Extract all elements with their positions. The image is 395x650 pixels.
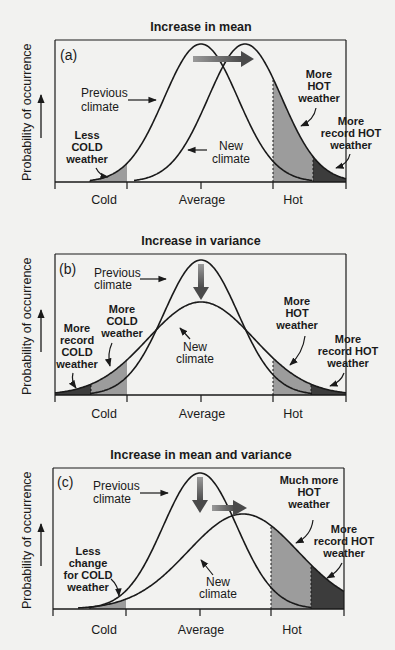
- x-tick-label: Cold: [91, 623, 117, 637]
- more-record-hot-label: record HOT: [318, 345, 379, 357]
- pointer-arrow-icon: [72, 373, 76, 388]
- new-climate-label: New: [219, 139, 243, 153]
- y-axis-label: Probability of occurrence: [20, 43, 34, 181]
- more-hot-label: HOT: [307, 80, 331, 92]
- previous-climate-label: climate: [81, 100, 119, 114]
- more-record-cold-label: COLD: [61, 346, 92, 358]
- shift-down-arrow-icon: [198, 264, 204, 288]
- much-more-hot-label: Much more: [280, 474, 339, 486]
- panel-title: Increase in mean: [150, 20, 251, 34]
- x-tick-label: Cold: [91, 193, 117, 207]
- less-change-cold-label: Less: [75, 545, 100, 557]
- pointer-arrow-icon: [327, 563, 342, 578]
- x-tick-label: Cold: [91, 407, 117, 421]
- pointer-arrow-icon: [201, 560, 213, 575]
- x-tick-label: Hot: [282, 623, 302, 637]
- less-cold-label: Less: [74, 129, 99, 141]
- previous-climate-label: climate: [94, 278, 132, 292]
- pointer-arrow-icon: [96, 168, 108, 177]
- more-record-cold-label: weather: [55, 358, 98, 370]
- less-cold-label: COLD: [71, 141, 102, 153]
- x-tick-label: Hot: [283, 193, 303, 207]
- y-axis-label: Probability of occurrence: [20, 257, 34, 395]
- more-record-cold-label: More: [64, 322, 90, 334]
- pointer-arrow-icon: [290, 336, 305, 365]
- pointer-arrow-icon: [109, 343, 112, 366]
- more-record-hot-label: weather: [329, 139, 372, 151]
- more-hot-label: HOT: [285, 307, 309, 319]
- extreme-region: [271, 526, 311, 609]
- less-change-cold-label: change: [69, 557, 108, 569]
- panel-label: (a): [60, 47, 77, 63]
- new-climate-label: climate: [212, 152, 250, 166]
- y-axis-label: Probability of occurrence: [20, 471, 34, 609]
- less-change-cold-label: weather: [66, 581, 109, 593]
- new-climate-label: climate: [176, 352, 214, 366]
- shift-down-arrow-icon: [197, 477, 203, 501]
- more-hot-label: More: [306, 68, 332, 80]
- more-record-cold-label: record: [60, 334, 94, 346]
- more-cold-label: More: [109, 303, 135, 315]
- arrowhead-icon: [192, 500, 208, 513]
- less-change-cold-label: for COLD: [64, 569, 113, 581]
- more-record-hot-label: More: [338, 115, 364, 127]
- much-more-hot-label: weather: [287, 498, 330, 510]
- pointer-arrow-icon: [330, 373, 344, 386]
- previous-climate-label: Previous: [81, 86, 128, 100]
- more-record-hot-label: More: [335, 333, 361, 345]
- panel-b: Increase in variance (b) Previous climat…: [20, 234, 379, 421]
- more-cold-label: COLD: [106, 315, 137, 327]
- shift-right-arrow-icon: [193, 56, 243, 62]
- pointer-arrow-icon: [301, 108, 316, 126]
- panel-label: (c): [57, 474, 73, 490]
- x-tick-label: Average: [178, 623, 224, 637]
- more-hot-label: More: [284, 295, 310, 307]
- record-extreme-region: [313, 157, 346, 182]
- pointer-arrow-icon: [180, 328, 190, 339]
- previous-climate-label: Previous: [93, 479, 140, 493]
- arrowhead-icon: [193, 287, 209, 300]
- record-extreme-region: [311, 565, 344, 609]
- x-tick-label: Average: [179, 193, 225, 207]
- pointer-arrow-icon: [336, 154, 350, 168]
- pointer-arrow-icon: [296, 520, 313, 543]
- climate-distribution-figure: Increase in mean (a) Previous climate Ne…: [0, 0, 395, 650]
- more-hot-label: weather: [275, 319, 318, 331]
- shift-right-arrow-icon: [212, 505, 235, 511]
- less-cold-label: weather: [65, 153, 108, 165]
- panel-c: Increase in mean and variance (c) Previo…: [20, 448, 375, 637]
- panel-a: Increase in mean (a) Previous climate Ne…: [20, 20, 382, 207]
- arrowhead-icon: [241, 51, 254, 67]
- previous-climate-label: climate: [93, 492, 131, 506]
- much-more-hot-label: HOT: [297, 486, 321, 498]
- panel-label: (b): [59, 261, 76, 277]
- panel-title: Increase in variance: [141, 234, 261, 248]
- x-tick-label: Hot: [283, 407, 303, 421]
- more-record-hot-label: More: [331, 523, 357, 535]
- more-cold-label: weather: [100, 327, 143, 339]
- panel-title: Increase in mean and variance: [110, 448, 291, 462]
- more-record-hot-label: record HOT: [321, 127, 382, 139]
- more-record-hot-label: weather: [322, 547, 365, 559]
- more-hot-label: weather: [297, 92, 340, 104]
- pointer-arrow-icon: [111, 579, 119, 596]
- new-climate-label: climate: [199, 587, 237, 601]
- more-record-hot-label: record HOT: [314, 535, 375, 547]
- x-tick-label: Average: [179, 407, 225, 421]
- more-record-hot-label: weather: [326, 357, 369, 369]
